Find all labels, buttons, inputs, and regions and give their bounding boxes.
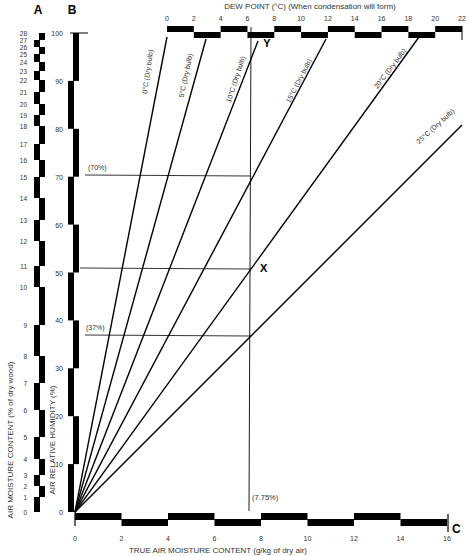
a-tick-label: 15 [20, 174, 28, 181]
x-axis-bar-segment [215, 519, 262, 526]
x-axis-bar-segment [401, 519, 448, 526]
a-axis-bar-segment [39, 104, 45, 115]
dry-bulb-label: 20°C (Dry bulb) [373, 47, 408, 90]
a-axis-bar-segment [34, 144, 40, 160]
a-axis-bar-segment [34, 497, 40, 512]
x-tick-label: 0 [73, 535, 77, 542]
b-axis-bar-segment [68, 273, 74, 321]
dew-axis-bar-segment [274, 26, 301, 32]
dew-tick-label: 20 [431, 15, 439, 22]
a-axis-bar-segment [39, 241, 45, 266]
x-tick-label: 2 [120, 535, 124, 542]
point-label-x: X [260, 262, 268, 274]
a-tick-label: 5 [23, 434, 27, 441]
x-tick-label: 16 [443, 535, 451, 542]
dew-axis-bar-segment [301, 32, 328, 38]
a-tick-label: 10 [20, 284, 28, 291]
x-tick-label: 14 [397, 535, 405, 542]
x-axis-bar-segment [122, 519, 169, 526]
dew-tick-label: 12 [324, 15, 332, 22]
b-axis-bar-segment [68, 464, 74, 512]
rh-reference-line [85, 335, 251, 336]
a-axis-bar-segment [34, 54, 40, 62]
b-axis-bar-segment [68, 81, 74, 129]
b-axis-bar-segment [68, 177, 74, 225]
dew-axis-bar-segment [167, 26, 194, 32]
b-axis-bar-segment [73, 129, 79, 177]
a-tick-label: 21 [20, 89, 28, 96]
dry-bulb-label: 25°C (Dry bulb) [415, 107, 456, 145]
a-tick-label: 7 [23, 380, 27, 387]
a-axis-bar-segment [39, 410, 45, 437]
b-tick-label: 50 [55, 270, 63, 277]
dry-bulb-label: 0°C (Dry bulb) [141, 49, 155, 94]
a-tick-label: 0 [23, 509, 27, 516]
moisture-nomogram: 0246810121416TRUE AIR MOISTURE CONTENT (… [0, 0, 471, 556]
dew-axis-bar-segment [355, 32, 382, 38]
a-tick-label: 17 [20, 141, 28, 148]
x-tick-label: 10 [304, 535, 312, 542]
x-axis-bar-segment [261, 513, 308, 520]
a-tick-label: 1 [23, 494, 27, 501]
x-axis-bar-segment [168, 513, 215, 520]
a-axis-bar-segment [39, 459, 45, 475]
x-axis-title: TRUE AIR MOISTURE CONTENT (g/kg of dry a… [129, 546, 307, 555]
b-axis-bar-segment [73, 416, 79, 464]
dry-bulb-line [75, 41, 258, 512]
x-tick-label: 4 [166, 535, 170, 542]
a-axis-bar-segment [34, 475, 40, 486]
dry-bulb-line [75, 37, 167, 512]
a-tick-label: 3 [23, 472, 27, 479]
x-tick-label: 12 [350, 535, 358, 542]
annotation-70: (70%) [88, 164, 107, 172]
dry-bulb-label: 15°C (Dry bulb) [285, 58, 314, 105]
dew-axis-bar-segment [408, 32, 435, 38]
annotation-7-75: (7.75%) [252, 493, 279, 502]
b-axis-bar-segment [68, 368, 74, 416]
dew-tick-label: 6 [246, 15, 250, 22]
axis-letter-c: C [452, 522, 461, 536]
axis-letter-b: B [68, 3, 77, 17]
point-label-y: Y [263, 37, 271, 49]
a-axis-bar-segment [39, 160, 45, 177]
a-axis-bar-segment [39, 80, 45, 92]
a-axis-bar-segment [39, 33, 45, 40]
rh-reference-line [80, 268, 251, 269]
dew-axis-bar-segment [435, 26, 462, 32]
dew-axis-bar-segment [382, 26, 409, 32]
b-axis-title: AIR RELATIVE HUMIDITY (%) [48, 385, 57, 494]
b-tick-label: 70 [55, 174, 63, 181]
dew-axis-bar-segment [328, 26, 355, 32]
a-tick-label: 26 [20, 44, 28, 51]
b-tick-label: 0 [59, 509, 63, 516]
dew-tick-label: 0 [165, 15, 169, 22]
annotation-37: (37%) [86, 324, 105, 332]
x-axis-bar-segment [308, 519, 355, 526]
x-tick-label: 6 [213, 535, 217, 542]
dry-bulb-line [75, 39, 206, 512]
a-tick-label: 22 [20, 77, 28, 84]
axis-letter-a: A [34, 3, 43, 17]
a-tick-label: 20 [20, 101, 28, 108]
a-tick-label: 6 [23, 407, 27, 414]
a-tick-label: 9 [23, 322, 27, 329]
a-tick-label: 13 [20, 217, 28, 224]
dew-axis-title: DEW POINT (°C) (When condensation will f… [224, 2, 396, 11]
b-tick-label: 30 [55, 365, 63, 372]
b-tick-label: 40 [55, 317, 63, 324]
dry-bulb-line [75, 39, 326, 512]
a-tick-label: 8 [23, 353, 27, 360]
a-axis-bar-segment [39, 287, 45, 325]
a-axis-bar-segment [34, 115, 40, 126]
a-axis-bar-segment [34, 383, 40, 410]
a-axis-bar-segment [39, 356, 45, 383]
a-axis-bar-segment [34, 266, 40, 287]
x-tick-label: 8 [259, 535, 263, 542]
dew-tick-label: 18 [404, 15, 412, 22]
a-axis-bar-segment [39, 47, 45, 54]
a-axis-bar-segment [34, 220, 40, 241]
b-tick-label: 90 [55, 78, 63, 85]
a-tick-label: 14 [20, 195, 28, 202]
a-tick-label: 27 [20, 37, 28, 44]
b-tick-label: 80 [55, 126, 63, 133]
